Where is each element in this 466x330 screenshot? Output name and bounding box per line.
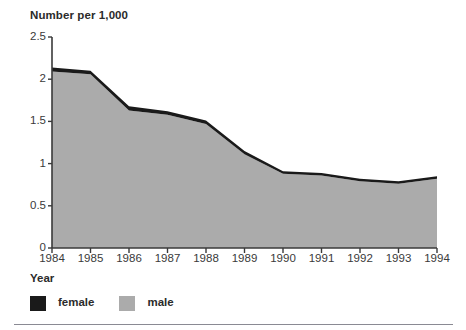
bottom-divider (14, 324, 453, 325)
y-tick-label: 2 (12, 73, 46, 85)
legend-label-female: female (58, 297, 94, 309)
y-tick-label: 0.5 (12, 200, 46, 212)
chart-legend: female male (30, 294, 199, 312)
y-tick-label: 2.5 (12, 31, 46, 43)
y-tick-label: 1 (12, 158, 46, 170)
legend-swatch-female (30, 296, 46, 311)
legend-label-male: male (147, 297, 173, 309)
x-tick-label-wrap: 1994 (414, 253, 460, 265)
legend-swatch-male (119, 296, 135, 311)
legend-item-female: female (30, 296, 94, 311)
x-axis-label: Year (30, 272, 54, 284)
y-tick-label: 1.5 (12, 115, 46, 127)
legend-item-male: male (119, 296, 173, 311)
plot-area (0, 0, 466, 330)
chart-figure: Number per 1,000 2.521.510.50 1984198519… (0, 0, 466, 330)
area-series-male (52, 72, 437, 248)
x-tick-label: 1994 (414, 253, 460, 265)
